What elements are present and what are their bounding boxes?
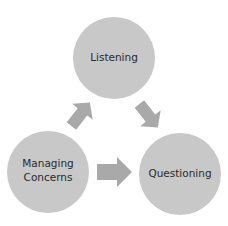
- label-listening: Listening: [90, 51, 138, 63]
- label-concerns: Concerns: [24, 171, 73, 183]
- label-questioning: Questioning: [148, 167, 211, 179]
- diagram-canvas: Listening Managing Concerns Questioning: [0, 0, 228, 226]
- arrow-managing-to-questioning: [97, 157, 132, 187]
- cycle-diagram: Listening Managing Concerns Questioning: [0, 0, 228, 226]
- label-managing: Managing: [22, 157, 74, 169]
- arrow-managing-to-listening: [61, 94, 100, 134]
- arrow-listening-to-questioning: [129, 96, 168, 136]
